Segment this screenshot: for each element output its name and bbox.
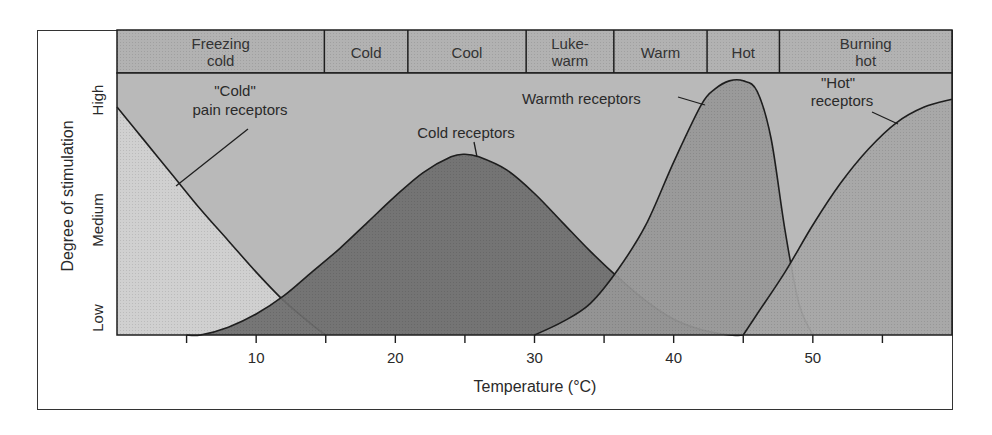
y-axis: LowMediumHighDegree of stimulation xyxy=(59,85,106,332)
band-label: Freezing xyxy=(191,35,249,52)
band-label-line2: hot xyxy=(855,52,877,69)
band-label-line2: cold xyxy=(207,52,235,69)
x-tick-label: 20 xyxy=(387,349,404,366)
annotation-hot-line2: receptors xyxy=(811,92,874,109)
annotation-hot-line1: "Hot" xyxy=(821,74,855,91)
thermoreceptor-chart: FreezingcoldColdCoolLuke-warmWarmHotBurn… xyxy=(0,0,992,435)
x-tick-label: 40 xyxy=(665,349,682,366)
x-axis: 1020304050Temperature (°C) xyxy=(187,335,883,395)
annotation-cold-pain-line1: "Cold" xyxy=(214,82,256,99)
annotation-warmth: Warmth receptors xyxy=(522,90,641,107)
band-label-line2: warm xyxy=(551,52,589,69)
band-label: Warm xyxy=(641,44,680,61)
y-level-label: Medium xyxy=(89,193,106,246)
band-label: Luke- xyxy=(551,35,589,52)
annotation-cold-pain-line2: pain receptors xyxy=(192,101,287,118)
temperature-band-header: FreezingcoldColdCoolLuke-warmWarmHotBurn… xyxy=(117,30,952,73)
y-level-label: Low xyxy=(89,304,106,332)
band-label: Burning xyxy=(840,35,892,52)
x-axis-title: Temperature (°C) xyxy=(474,378,597,395)
y-level-label: High xyxy=(89,85,106,116)
y-axis-title: Degree of stimulation xyxy=(59,120,76,271)
band-label: Cold xyxy=(351,44,382,61)
band-label: Hot xyxy=(732,44,756,61)
x-tick-label: 50 xyxy=(804,349,821,366)
annotation-cold: Cold receptors xyxy=(417,124,515,141)
band-label: Cool xyxy=(452,44,483,61)
x-tick-label: 30 xyxy=(526,349,543,366)
x-tick-label: 10 xyxy=(248,349,265,366)
